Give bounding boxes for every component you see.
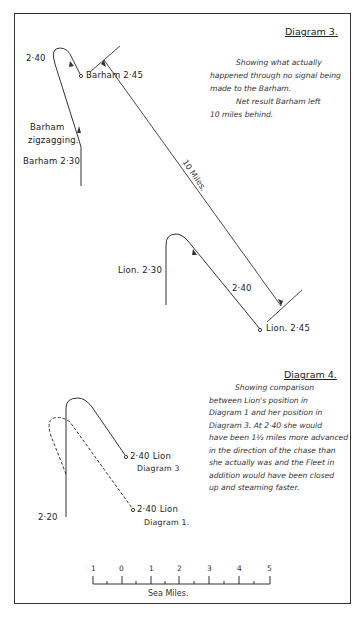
scale-tick-label: 3 [207,564,212,573]
barham-245-label: Barham 2·45 [86,70,143,80]
barham-240-label: 2·40 [26,53,46,63]
barham-zigzag-label-1: Barham [30,122,64,132]
lion-track-dashed-d4 [49,418,132,509]
diagram-page: Diagram 3. Showing what actually happene… [0,0,362,620]
scale-bar [93,576,270,584]
lion-d3-ref-label: Diagram 3 [137,464,180,473]
barham-245-marker [79,74,82,77]
scale-caption: Sea Miles. [148,589,188,598]
lion-240-label: 2·40 [232,283,252,293]
barham-arrow2-icon [69,61,74,67]
lion-arrow-icon [192,249,197,255]
lion-245-marker [258,328,261,331]
scale-tick-label: 5 [267,564,272,573]
diagram4-title: Diagram 4. [284,369,337,380]
lion-d3-marker [124,455,127,458]
diagram3-description: Showing what actually happened through n… [210,56,350,121]
scale-tick-label: 2 [177,564,182,573]
barham-230-label: Barham 2·30 [23,156,80,166]
lion-230-label: Lion. 2·30 [118,265,162,275]
lion-245-label: Lion. 2·45 [266,323,310,333]
scale-tick-label: 1 [149,564,154,573]
lion-d1-marker [131,508,134,511]
scale-tick-label: 4 [237,564,242,573]
barham-arrow-icon [77,126,81,133]
start-220-label: 2·20 [38,512,58,522]
lion-bearing-tick [267,290,302,322]
scale-tick-label: 1 [91,564,96,573]
diagram3-title: Diagram 3. [285,26,338,37]
lion-d1-ref-label: Diagram 1. [144,518,189,527]
lion-d1-time-label: 2·40 Lion [137,504,178,514]
barham-zigzag-label-2: zigzagging. [28,135,79,145]
lion-track-diagram3 [166,234,260,329]
lion-d3-time-label: 2·40 Lion [130,451,171,461]
barham-bearing-tick [90,46,120,72]
scale-tick-label: 0 [119,564,124,573]
diagram4-description: Showing comparison between Lion's positi… [209,382,354,495]
